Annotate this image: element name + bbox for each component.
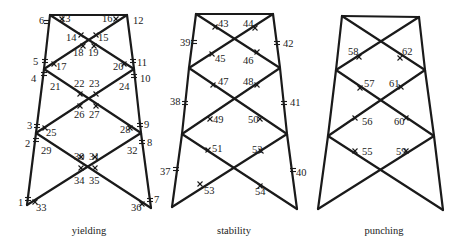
hinge-number-label: 29 [41, 145, 52, 156]
hinge-number-label: 14 [66, 32, 77, 43]
right-leg-lower [434, 136, 443, 210]
hinge-number-label: 33 [36, 202, 47, 213]
panel-caption: yielding [72, 225, 107, 236]
hinge-number-label: 36 [131, 202, 142, 213]
brace [336, 70, 434, 136]
hinge-number-label: 32 [127, 145, 138, 156]
hinge-number-label: 44 [243, 18, 254, 29]
brace [27, 133, 141, 205]
hinge-number-label: 43 [218, 18, 229, 29]
hinge-number-label: 59 [396, 146, 407, 157]
hinge-number-label: 58 [348, 46, 359, 57]
brace [336, 17, 419, 70]
hinge-number-label: 49 [213, 114, 224, 125]
brace [328, 136, 443, 210]
plastic-hinge-icon [198, 182, 203, 187]
left-leg-lower [318, 136, 328, 209]
hinge-number-label: 20 [113, 61, 124, 72]
brace [182, 68, 280, 134]
hinge-number-label: 53 [204, 185, 215, 196]
hinge-number-label: 18 [73, 47, 84, 58]
left-leg-middle [328, 70, 336, 136]
hinge-number-label: 25 [46, 127, 57, 138]
hinge-number-label: 35 [89, 175, 100, 186]
hinge-number-label: 51 [212, 143, 223, 154]
hinge-number-label: 39 [180, 37, 191, 48]
hinge-number-label: 5 [33, 56, 38, 67]
left-leg-upper [336, 16, 342, 70]
right-leg-upper [419, 17, 425, 70]
hinge-number-label: 47 [218, 76, 229, 87]
plastic-hinge-icon [208, 117, 213, 122]
hinge-number-label: 9 [144, 119, 149, 130]
hinge-number-label: 54 [255, 186, 266, 197]
hinge-number-label: 3 [27, 120, 32, 131]
hinge-number-label: 4 [31, 73, 37, 84]
brace [172, 134, 287, 207]
panel-yielding: 1234567891011121314151617181920212223242… [18, 13, 159, 236]
hinge-number-label: 37 [160, 166, 171, 177]
hinge-number-label: 2 [25, 138, 30, 149]
hinge-number-label: 11 [137, 57, 147, 68]
hinge-number-label: 52 [252, 144, 263, 155]
panel-caption: punching [364, 225, 404, 236]
hinge-number-label: 31 [89, 151, 100, 162]
brace [328, 70, 425, 136]
hinge-number-label: 16 [102, 13, 113, 24]
brace [196, 14, 280, 68]
hinge-number-label: 38 [170, 96, 181, 107]
hinge-number-label: 6 [39, 15, 44, 26]
hinge-number-label: 57 [364, 78, 375, 89]
hinge-number-label: 56 [362, 116, 373, 127]
hinge-number-label: 21 [50, 81, 61, 92]
hinge-number-label: 10 [140, 73, 151, 84]
hinge-number-label: 1 [18, 197, 23, 208]
hinge-number-label: 61 [389, 78, 400, 89]
hinge-number-label: 50 [248, 114, 259, 125]
hinge-number-label: 28 [120, 124, 131, 135]
brace [182, 134, 297, 209]
hinge-number-label: 45 [215, 53, 226, 64]
panel-stability: 373839404142434445464748495051525354stab… [160, 14, 307, 236]
hinge-number-label: 26 [74, 109, 85, 120]
hinge-number-label: 13 [60, 13, 71, 24]
hinge-number-label: 40 [296, 167, 307, 178]
hinge-number-label: 46 [243, 55, 254, 66]
brace [318, 136, 434, 209]
hinge-number-label: 15 [98, 32, 109, 43]
left-leg-middle [36, 69, 44, 133]
plastic-hinge-diagram: 1234567891011121314151617181920212223242… [0, 0, 465, 248]
brace [189, 68, 287, 134]
top-beam [342, 16, 419, 17]
hinge-number-label: 17 [56, 61, 67, 72]
plastic-hinge-icon [93, 166, 98, 171]
hinge-number-label: 12 [133, 15, 144, 26]
brace [189, 14, 273, 68]
brace [342, 16, 425, 70]
hinge-number-label: 55 [362, 146, 373, 157]
hinge-number-label: 34 [74, 175, 85, 186]
hinge-number-label: 48 [243, 76, 254, 87]
hinge-number-label: 62 [402, 46, 413, 57]
hinge-number-label: 8 [147, 137, 152, 148]
plastic-hinge-icon [114, 17, 119, 22]
panel-punching: 5556575859606162punching [318, 16, 443, 236]
hinge-number-label: 19 [88, 47, 99, 58]
hinge-number-label: 27 [89, 109, 100, 120]
hinge-number-label: 41 [290, 97, 301, 108]
hinge-number-label: 60 [394, 116, 405, 127]
hinge-number-label: 24 [119, 81, 130, 92]
hinge-number-label: 23 [89, 78, 100, 89]
right-leg-middle [425, 70, 434, 136]
panel-caption: stability [217, 225, 252, 236]
hinge-number-label: 30 [74, 151, 85, 162]
hinge-number-label: 42 [283, 38, 294, 49]
hinge-number-label: 22 [74, 78, 85, 89]
hinge-number-label: 7 [154, 194, 159, 205]
